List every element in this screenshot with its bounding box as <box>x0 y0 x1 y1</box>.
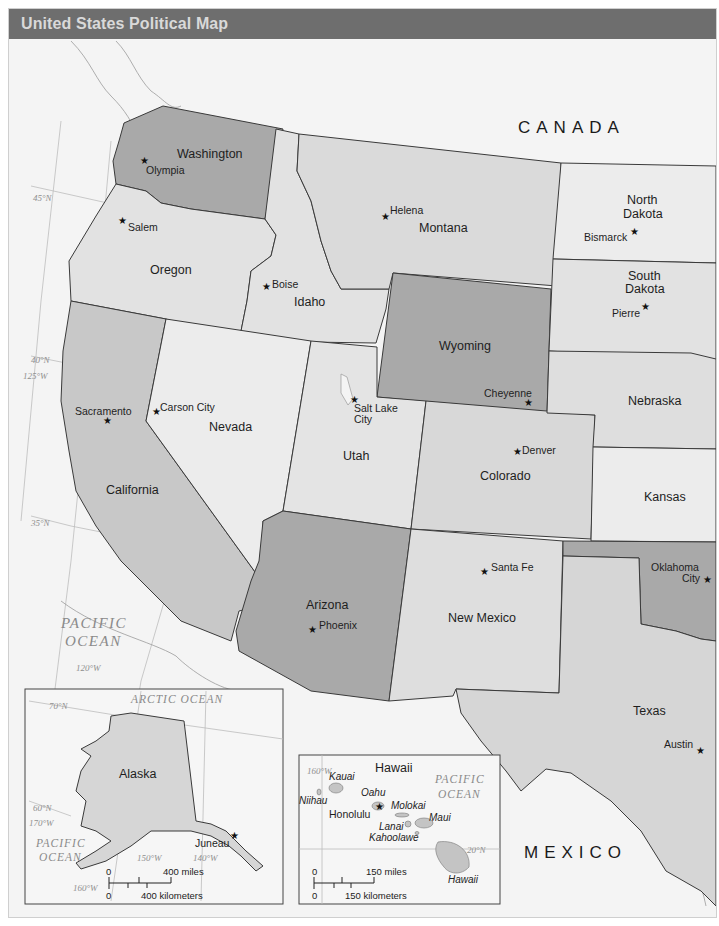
scale-km: 150 kilometers <box>345 890 407 901</box>
capital-salt-lake-city-line2: City <box>354 413 373 425</box>
island-molokai <box>395 813 409 817</box>
capital-star-icon: ★ <box>375 801 384 812</box>
capital-phoenix: Phoenix <box>319 619 358 631</box>
capital-santa-fe: Santa Fe <box>491 561 534 573</box>
capital-honolulu: Honolulu <box>329 808 371 820</box>
graticule-label-150w: 150°W <box>137 853 163 863</box>
ocean-label-arctic: ARCTIC OCEAN <box>130 693 224 705</box>
label-kahoolawe: Kahoolawe <box>369 832 419 843</box>
label-texas: Texas <box>633 704 666 718</box>
label-north-dakota: North <box>627 193 658 207</box>
capital-oklahoma-city-line2: City <box>682 572 701 584</box>
scale-zero-top: 0 <box>312 866 317 877</box>
alaska-inset: ARCTIC OCEAN Alaska ★ Juneau PACIFIC OCE… <box>25 689 283 904</box>
capital-sacramento: Sacramento <box>75 405 132 417</box>
label-south-dakota-line2: Dakota <box>625 282 665 296</box>
capital-star-icon: ★ <box>630 226 639 237</box>
label-maui: Maui <box>429 812 451 823</box>
label-kansas: Kansas <box>644 490 686 504</box>
scale-zero-bottom: 0 <box>106 890 111 901</box>
ocean-label-pacific-alaska: PACIFIC <box>35 837 86 849</box>
ocean-label-pacific-line2: OCEAN <box>65 633 122 649</box>
label-alaska: Alaska <box>119 767 157 781</box>
label-south-dakota: South <box>628 269 661 283</box>
country-label-mexico: MEXICO <box>524 843 627 862</box>
state-montana[interactable] <box>297 134 561 289</box>
capital-bismarck: Bismarck <box>584 231 628 243</box>
capital-olympia: Olympia <box>146 164 185 176</box>
graticule-label-60n: 60°N <box>33 803 53 813</box>
label-colorado: Colorado <box>480 469 531 483</box>
label-arizona: Arizona <box>306 598 348 612</box>
capital-star-icon: ★ <box>381 211 390 222</box>
label-california: California <box>106 483 159 497</box>
graticule-label-20n: 20°N <box>467 845 487 855</box>
scale-miles: 150 miles <box>366 866 407 877</box>
graticule-label-170w: 170°W <box>29 818 55 828</box>
label-oahu: Oahu <box>361 787 386 798</box>
capital-star-icon: ★ <box>641 301 650 312</box>
label-niihau: Niihau <box>299 795 328 806</box>
capital-star-icon: ★ <box>308 624 317 635</box>
ocean-label-pacific-hawaii: PACIFIC <box>434 773 485 785</box>
label-utah: Utah <box>343 449 369 463</box>
scale-zero-top: 0 <box>106 866 111 877</box>
label-new-mexico: New Mexico <box>448 611 516 625</box>
capital-star-icon: ★ <box>118 215 127 226</box>
label-nevada: Nevada <box>209 420 252 434</box>
island-lanai <box>405 821 411 827</box>
label-idaho: Idaho <box>294 295 325 309</box>
capital-carson-city: Carson City <box>160 401 216 413</box>
hawaii-inset: 160°W 20°N Hawaii PACIFIC OCEAN ★ Honolu… <box>299 755 500 904</box>
capital-star-icon: ★ <box>262 281 271 292</box>
country-label-canada: CANADA <box>518 118 625 137</box>
label-oregon: Oregon <box>150 263 192 277</box>
label-kauai: Kauai <box>329 771 355 782</box>
ocean-label-pacific-hawaii-line2: OCEAN <box>438 788 481 800</box>
label-wyoming: Wyoming <box>439 339 491 353</box>
map-frame: United States Political Map <box>8 8 717 918</box>
label-hawaii: Hawaii <box>375 761 413 775</box>
label-hawaii-island: Hawaii <box>448 874 479 885</box>
title-bar: United States Political Map <box>9 9 716 39</box>
graticule-label-40n: 40°N <box>31 355 51 365</box>
label-molokai: Molokai <box>391 800 426 811</box>
capital-juneau: Juneau <box>195 837 230 849</box>
label-lanai: Lanai <box>379 821 404 832</box>
capital-star-icon: ★ <box>696 745 705 756</box>
capital-denver: Denver <box>522 444 556 456</box>
capital-pierre: Pierre <box>612 307 640 319</box>
scale-km: 400 kilometers <box>141 890 203 901</box>
ocean-label-pacific: PACIFIC <box>60 615 127 631</box>
graticule-label-160w: 160°W <box>73 883 99 893</box>
scale-miles: 400 miles <box>163 866 204 877</box>
label-north-dakota-line2: Dakota <box>623 207 663 221</box>
capital-star-icon: ★ <box>480 566 489 577</box>
map-title: United States Political Map <box>21 15 228 33</box>
capital-boise: Boise <box>272 278 298 290</box>
scale-zero-bottom: 0 <box>312 890 317 901</box>
capital-star-icon: ★ <box>230 830 239 841</box>
graticule-label-70n: 70°N <box>49 701 69 711</box>
graticule-label-125w: 125°W <box>23 371 49 381</box>
graticule-label-120w: 120°W <box>76 663 102 673</box>
graticule-label-35n: 35°N <box>30 518 51 528</box>
capital-helena: Helena <box>390 204 423 216</box>
capital-salem: Salem <box>128 221 158 233</box>
capital-star-icon: ★ <box>703 574 712 585</box>
label-montana: Montana <box>419 221 468 235</box>
label-washington: Washington <box>177 147 243 161</box>
island-kauai <box>329 783 343 793</box>
us-political-map: CANADA MEXICO PACIFIC OCEAN 45°N 40°N 12… <box>9 9 717 918</box>
capital-cheyenne: Cheyenne <box>484 387 532 399</box>
label-nebraska: Nebraska <box>628 394 682 408</box>
graticule-label-45n: 45°N <box>33 193 53 203</box>
graticule-label-140w: 140°W <box>193 853 219 863</box>
capital-star-icon: ★ <box>513 446 522 457</box>
ocean-label-pacific-alaska-line2: OCEAN <box>39 851 82 863</box>
capital-austin: Austin <box>664 738 693 750</box>
